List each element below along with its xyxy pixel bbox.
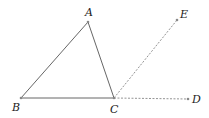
label-b: B	[11, 101, 20, 114]
segment-ab	[21, 22, 88, 98]
point-c	[113, 97, 116, 100]
point-e	[176, 19, 179, 22]
diagram-svg: A B C D E	[0, 0, 209, 118]
point-b	[20, 97, 23, 100]
ray-cd	[114, 98, 188, 99]
label-c: C	[110, 103, 119, 116]
point-d	[187, 98, 190, 101]
label-e: E	[179, 8, 188, 21]
ray-ce	[114, 20, 177, 98]
label-d: D	[191, 93, 201, 106]
point-a	[87, 21, 90, 24]
geometry-diagram: A B C D E	[0, 0, 209, 118]
segment-ac	[88, 22, 114, 98]
label-a: A	[84, 6, 93, 19]
